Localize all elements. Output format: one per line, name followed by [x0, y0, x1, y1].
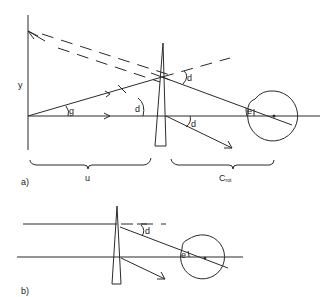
refracted-ray-b [121, 258, 165, 279]
angle-d-arc-lower [186, 116, 191, 127]
deviated-ray [162, 77, 292, 125]
label-e-b: e [181, 250, 186, 260]
deviated-ray-b [120, 227, 228, 268]
label-d-upper: d [187, 73, 192, 83]
label-u: u [85, 173, 90, 183]
label-d-lower: d [191, 119, 196, 129]
label-d-b: d [145, 226, 150, 236]
prism-optics-diagram: y g d d d e u Crot a) [0, 0, 335, 297]
incident-ray [28, 77, 162, 116]
label-e: e [247, 106, 252, 116]
virtual-ray-start [28, 31, 45, 41]
angle-d-arc-b [141, 225, 144, 236]
angle-e-arc-b [188, 251, 189, 257]
prism-b [112, 206, 121, 284]
refracted-ray-lower [166, 116, 232, 148]
label-d-prism: d [135, 104, 140, 114]
brace-c-rot [171, 159, 274, 169]
panel-b-label: b) [21, 286, 29, 296]
brace-u [30, 158, 151, 169]
virtual-ray-lower [58, 48, 160, 82]
prism [155, 43, 166, 146]
panel-b: d e b) [17, 206, 243, 296]
eye-rotation-center-b [204, 257, 207, 260]
label-y: y [18, 80, 23, 90]
label-g: g [69, 106, 74, 116]
label-c-rot: Crot [219, 173, 232, 183]
virtual-ray-extension [162, 58, 230, 77]
panel-a-label: a) [21, 177, 29, 187]
panel-a: y g d d d e u Crot a) [18, 15, 320, 187]
eye-rotation-center [273, 115, 276, 118]
virtual-ray-upper [42, 34, 170, 75]
